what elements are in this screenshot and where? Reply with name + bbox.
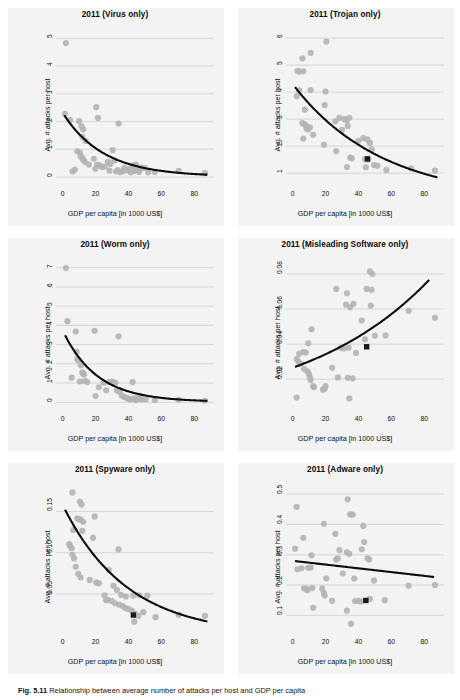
fit-line — [65, 335, 207, 401]
chart-title: 2011 (Trojan only) — [230, 10, 460, 19]
x-tick-label: 0 — [51, 415, 75, 422]
scatter-point — [106, 168, 112, 174]
x-tick-label: 60 — [149, 190, 173, 197]
caption-label: Fig. 5.11 — [18, 686, 47, 695]
x-tick-label: 80 — [412, 638, 436, 645]
scatter-point — [322, 592, 328, 598]
scatter-point — [321, 521, 327, 527]
scatter-point — [92, 328, 98, 334]
scatter-point — [374, 163, 380, 169]
x-axis-label: GDP per capita [in 1000 US$] — [230, 657, 460, 666]
scatter-point — [63, 265, 69, 271]
scatter-point — [80, 519, 86, 525]
x-tick-label: 40 — [346, 638, 370, 645]
scatter-point — [359, 317, 365, 323]
x-tick-label: 0 — [281, 638, 305, 645]
scatter-point — [347, 304, 353, 310]
x-tick-label: 80 — [412, 415, 436, 422]
x-tick-label: 40 — [116, 638, 140, 645]
scatter-point — [115, 333, 121, 339]
fit-line — [65, 510, 207, 622]
scatter-point — [335, 374, 341, 380]
x-tick-label: 0 — [51, 190, 75, 197]
scatter-point — [90, 535, 96, 541]
highlight-marker — [363, 598, 368, 603]
highlight-marker — [365, 156, 370, 161]
scatter-point — [110, 147, 116, 153]
x-tick-label: 80 — [182, 638, 206, 645]
fit-line — [295, 87, 437, 177]
chart-title: 2011 (Spyware only) — [0, 465, 230, 474]
x-tick-label: 60 — [149, 415, 173, 422]
x-tick-label: 80 — [182, 415, 206, 422]
scatter-point — [346, 115, 352, 121]
fit-line — [64, 115, 207, 174]
scatter-point — [123, 593, 129, 599]
chart-panel-misleading: 2011 (Misleading Software only)Avg. # at… — [230, 230, 460, 455]
scatter-point — [115, 546, 121, 552]
chart-title: 2011 (Misleading Software only) — [230, 240, 460, 249]
x-tick-label: 60 — [379, 190, 403, 197]
x-tick-label: 20 — [314, 638, 338, 645]
scatter-point — [143, 396, 149, 402]
scatter-point — [152, 614, 158, 620]
scatter-point — [300, 535, 306, 541]
scatter-point — [349, 155, 355, 161]
scatter-point — [84, 379, 90, 385]
scatter-point — [308, 326, 314, 332]
fit-line — [295, 561, 434, 577]
scatter-point — [309, 585, 315, 591]
scatter-point — [382, 597, 388, 603]
scatter-point — [346, 395, 352, 401]
scatter-point — [140, 609, 146, 615]
scatter-point — [350, 511, 356, 517]
scatter-point — [69, 489, 75, 495]
scatter-point — [302, 107, 308, 113]
scatter-point — [344, 164, 350, 170]
scatter-point — [107, 161, 113, 167]
scatter-point — [78, 501, 84, 507]
scatter-point — [336, 547, 342, 553]
scatter-point — [322, 89, 328, 95]
scatter-point — [345, 123, 351, 129]
scatter-point — [368, 287, 374, 293]
scatter-point — [348, 621, 354, 627]
scatter-point — [120, 168, 126, 174]
scatter-point — [406, 308, 412, 314]
scatter-point — [362, 336, 368, 342]
chart-title: 2011 (Virus only) — [0, 10, 230, 19]
x-axis-label: GDP per capita [in 1000 US$] — [230, 209, 460, 218]
chart-title: 2011 (Adware only) — [230, 465, 460, 474]
plot-area — [286, 260, 444, 409]
scatter-point — [73, 564, 79, 570]
scatter-point — [63, 40, 69, 46]
scatter-point — [81, 371, 87, 377]
scatter-point — [73, 328, 79, 334]
x-tick-label: 40 — [346, 415, 370, 422]
scatter-point — [322, 102, 328, 108]
chart-panel-worm: 2011 (Worm only)Avg. # attacks per hostG… — [0, 230, 230, 455]
scatter-point — [310, 605, 316, 611]
scatter-point — [96, 384, 102, 390]
scatter-point — [300, 68, 306, 74]
x-tick-label: 0 — [51, 638, 75, 645]
plot-canvas — [286, 485, 444, 632]
scatter-point — [383, 167, 389, 173]
x-tick-label: 60 — [149, 638, 173, 645]
scatter-point — [358, 598, 364, 604]
x-tick-label: 80 — [412, 190, 436, 197]
scatter-point — [87, 577, 93, 583]
x-tick-label: 40 — [116, 415, 140, 422]
scatter-point — [292, 546, 298, 552]
scatter-point — [76, 118, 82, 124]
scatter-point — [333, 148, 339, 154]
scatter-point — [91, 156, 97, 162]
scatter-point — [369, 271, 375, 277]
scatter-point — [323, 575, 329, 581]
x-tick-label: 80 — [182, 190, 206, 197]
x-tick-label: 40 — [346, 190, 370, 197]
scatter-point — [69, 545, 75, 551]
scatter-point — [310, 132, 316, 138]
scatter-point — [366, 556, 372, 562]
scatter-point — [300, 136, 306, 142]
